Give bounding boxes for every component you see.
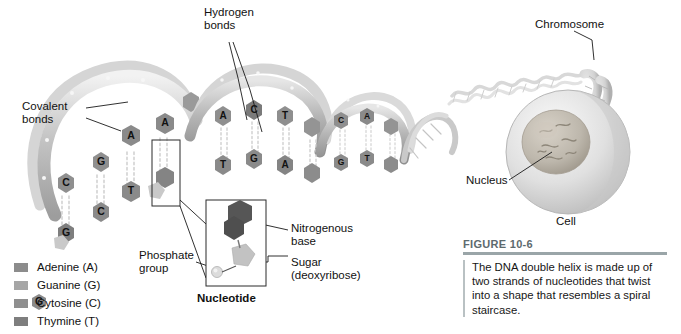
- svg-text:T: T: [282, 110, 288, 121]
- svg-text:A: A: [161, 116, 169, 128]
- legend-label-thymine: Thymine (T): [37, 315, 99, 327]
- cell-diagram: [506, 90, 630, 214]
- legend-label-guanine: Guanine (G): [37, 279, 100, 291]
- label-hydrogen-bonds: Hydrogen bonds: [204, 6, 254, 32]
- helix-bases-upper-2: [215, 100, 320, 137]
- legend-swatch-guanine: [14, 281, 28, 290]
- figure-caption-text: The DNA double helix is made up of two s…: [463, 260, 671, 317]
- svg-text:C: C: [338, 115, 344, 125]
- figure-number: FIGURE 10-6: [463, 238, 671, 250]
- label-nucleotide: Nucleotide: [197, 292, 256, 305]
- svg-text:C: C: [97, 205, 105, 217]
- svg-text:T: T: [128, 184, 135, 196]
- label-covalent-bonds: Covalent bonds: [22, 100, 67, 126]
- helix-coil-2: A C T T G A: [190, 69, 328, 183]
- svg-text:G: G: [62, 226, 70, 238]
- svg-text:A: A: [219, 110, 226, 121]
- svg-text:G: G: [338, 157, 345, 167]
- legend-swatch-cytosine: [14, 299, 28, 308]
- legend-label-adenine: Adenine (A): [37, 261, 98, 273]
- helix-bases-lower-2: [215, 149, 320, 183]
- svg-text:A: A: [281, 159, 288, 170]
- svg-text:C: C: [62, 176, 70, 188]
- svg-text:G: G: [97, 155, 105, 167]
- svg-text:T: T: [364, 153, 370, 163]
- dna-figure: C G A A G C T G: [0, 0, 681, 334]
- legend-item-cytosine: Cytosine (C): [14, 294, 164, 312]
- legend-item-guanine: Guanine (G): [14, 276, 164, 294]
- legend-swatch-adenine: [14, 263, 28, 272]
- label-cell: Cell: [556, 215, 576, 228]
- label-nitrogenous-base: Nitrogenous base: [291, 222, 353, 248]
- caption-rule: [463, 252, 667, 255]
- legend-swatch-thymine: [14, 317, 28, 326]
- figure-caption-block: FIGURE 10-6 The DNA double helix is made…: [463, 238, 671, 317]
- base-legend: Adenine (A) Guanine (G) Cytosine (C) Thy…: [14, 258, 164, 330]
- svg-text:G: G: [250, 153, 258, 164]
- legend-label-cytosine: Cytosine (C): [37, 297, 101, 309]
- helix-coil-3: C A G T: [320, 96, 412, 173]
- label-sugar: Sugar (deoxyribose): [291, 256, 361, 282]
- legend-item-adenine: Adenine (A): [14, 258, 164, 276]
- svg-text:A: A: [127, 129, 135, 141]
- svg-text:T: T: [220, 159, 226, 170]
- helix-bases-lower-1: [58, 167, 174, 243]
- legend-item-thymine: Thymine (T): [14, 312, 164, 330]
- svg-text:A: A: [364, 111, 370, 121]
- label-nucleus: Nucleus: [466, 174, 508, 187]
- label-chromosome: Chromosome: [535, 18, 604, 31]
- nucleotide-inset: [206, 200, 266, 286]
